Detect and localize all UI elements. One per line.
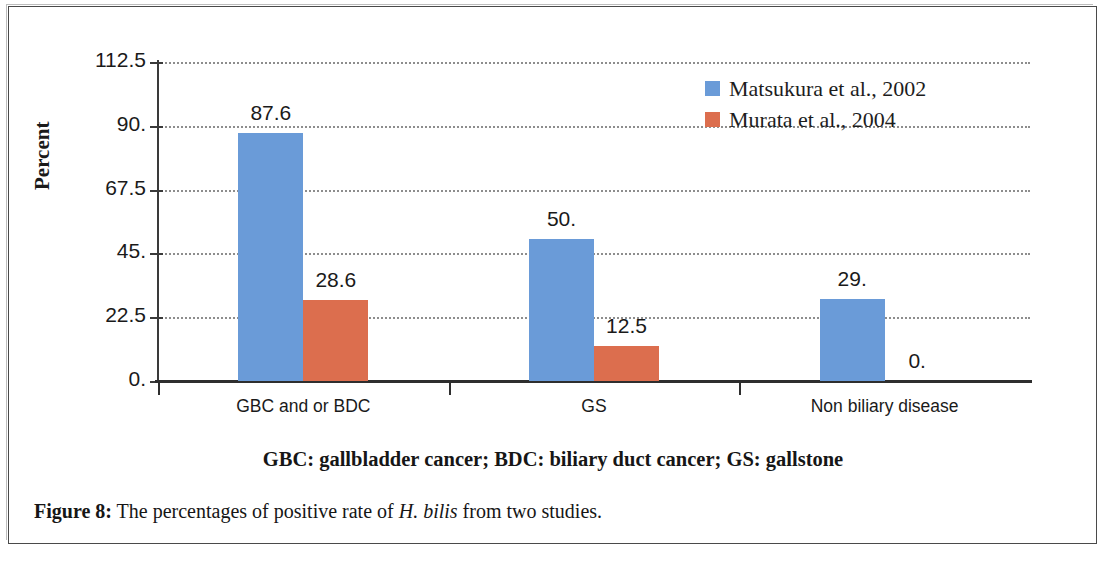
bar [303,300,368,381]
y-tick-label: 67.5 [56,176,146,200]
legend-item-1: Murata et al., 2004 [705,104,926,135]
legend-label-1: Murata et al., 2004 [729,107,896,133]
bar-value-label: 87.6 [213,101,328,125]
category-label: GBC and or BDC [158,396,449,417]
y-tick-label: 112.5 [56,48,146,72]
category-label: Non biliary disease [739,396,1030,417]
bar-value-label: 50. [504,207,619,231]
bar [529,239,594,381]
legend-item-0: Matsukura et al., 2002 [705,73,926,104]
bar-value-label: 28.6 [278,268,393,292]
bar [594,346,659,381]
legend-swatch-blue [705,81,720,96]
legend-label-0: Matsukura et al., 2002 [729,76,926,102]
figure-page: Percent 0.22.545.67.590.112.5 87.628.650… [0,0,1106,567]
x-tick-mark [449,381,451,395]
x-tick-mark [158,381,160,395]
y-tick-label: 22.5 [56,303,146,327]
y-tick-label: 0. [56,367,146,391]
y-tick-label: 90. [56,112,146,136]
bar-value-label: 0. [860,349,975,373]
bar-value-label: 12.5 [569,314,684,338]
gridline [158,62,1030,64]
figure-caption: Figure 8: The percentages of positive ra… [34,500,602,523]
chart-subtitle: GBC: gallbladder cancer; BDC: biliary du… [0,448,1106,471]
figure-caption-species: H. bilis [399,500,458,522]
figure-caption-text-1: The percentages of positive rate of [112,500,399,522]
y-axis-title: Percent [30,122,55,190]
y-axis-line [157,60,159,383]
figure-caption-text-2: from two studies. [458,500,602,522]
category-label: GS [449,396,740,417]
x-tick-mark [739,381,741,395]
chart-legend: Matsukura et al., 2002 Murata et al., 20… [705,73,926,135]
figure-caption-label: Figure 8: [34,500,112,522]
bar [238,133,303,381]
y-tick-label: 45. [56,239,146,263]
bar-value-label: 29. [795,267,910,291]
legend-swatch-orange [705,112,720,127]
bar-chart: Percent 0.22.545.67.590.112.5 87.628.650… [0,0,1106,440]
